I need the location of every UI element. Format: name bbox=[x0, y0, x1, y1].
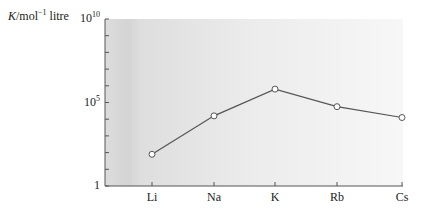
data-point-marker bbox=[149, 151, 155, 157]
y-tick-label: 1 bbox=[94, 178, 100, 193]
chart-svg bbox=[0, 0, 436, 211]
x-tick-label: K bbox=[260, 190, 290, 205]
x-tick-label: Na bbox=[199, 190, 229, 205]
x-tick-label: Li bbox=[137, 190, 167, 205]
plot-background bbox=[105, 19, 403, 186]
data-point-marker bbox=[272, 86, 278, 92]
y-tick-label: 105 bbox=[84, 95, 100, 110]
y-tick-label: 1010 bbox=[80, 11, 100, 26]
data-point-marker bbox=[211, 113, 217, 119]
y-axis-title: K/mol−1 litre bbox=[8, 9, 69, 24]
data-point-marker bbox=[399, 115, 405, 121]
x-tick-label: Cs bbox=[387, 190, 417, 205]
data-point-marker bbox=[334, 104, 340, 110]
x-tick-label: Rb bbox=[322, 190, 352, 205]
